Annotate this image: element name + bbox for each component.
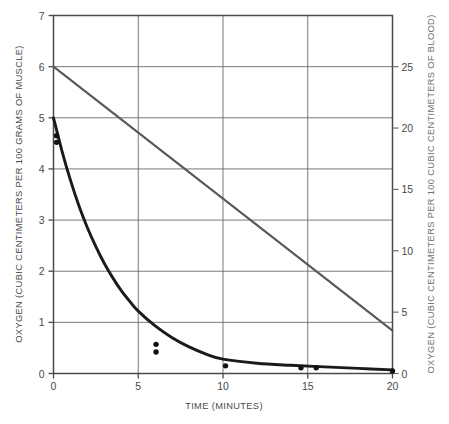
- data-point-marker: [314, 365, 319, 370]
- tick-label-left: 1: [39, 316, 45, 328]
- tick-label-left: 7: [39, 10, 45, 22]
- y-axis-title-left: OXYGEN (CUBIC CENTIMETERS PER 100 GRAMS …: [14, 45, 24, 342]
- y-axis-title-right: OXYGEN (CUBIC CENTIMETERS PER 100 CUBIC …: [426, 14, 436, 373]
- tick-label-bottom: 10: [217, 380, 229, 392]
- data-point-marker: [390, 368, 395, 373]
- tick-label-right: 5: [402, 306, 408, 318]
- x-axis-title: TIME (MINUTES): [185, 401, 263, 411]
- tick-label-right: 0: [402, 368, 408, 380]
- tick-label-left: 5: [39, 112, 45, 124]
- data-point-marker: [54, 133, 59, 138]
- tick-label-left: 0: [39, 368, 45, 380]
- data-point-marker: [298, 365, 303, 370]
- chart-figure: 01234567 0510152025 05101520 TIME (MINUT…: [0, 0, 449, 424]
- data-point-marker: [54, 140, 59, 145]
- data-point-marker: [153, 342, 158, 347]
- tick-label-left: 4: [39, 163, 45, 175]
- tick-label-bottom: 0: [51, 380, 57, 392]
- tick-label-right: 10: [402, 245, 414, 257]
- tick-label-left: 2: [39, 265, 45, 277]
- data-point-marker: [153, 349, 158, 354]
- tick-label-left: 3: [39, 214, 45, 226]
- tick-label-bottom: 5: [135, 380, 141, 392]
- tick-label-left: 6: [39, 61, 45, 73]
- tick-label-right: 25: [402, 61, 414, 73]
- tick-label-bottom: 20: [387, 380, 399, 392]
- oxygen-decay-chart: 01234567 0510152025 05101520 TIME (MINUT…: [0, 0, 449, 424]
- tick-label-right: 15: [402, 183, 414, 195]
- data-point-marker: [223, 363, 228, 368]
- tick-label-right: 20: [402, 122, 414, 134]
- tick-label-bottom: 15: [302, 380, 314, 392]
